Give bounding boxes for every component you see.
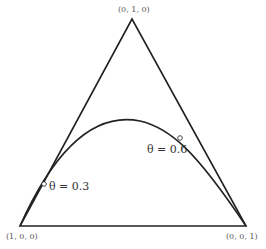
theta-0.6-marker xyxy=(178,136,183,141)
simplex-triangle xyxy=(20,19,246,226)
simplex-diagram: (0, 1, 0) (1, 0, 0) (0, 0, 1) θ = 0.3 θ … xyxy=(0,0,266,249)
theta-0.3-label: θ = 0.3 xyxy=(49,180,89,193)
vertex-label-bottom-right: (0, 0, 1) xyxy=(226,232,258,241)
theta-0.3-marker xyxy=(42,182,47,187)
theta-0.6-label: θ = 0.6 xyxy=(147,143,187,156)
vertex-label-top: (0, 1, 0) xyxy=(118,5,150,14)
theta-curve xyxy=(20,120,246,226)
vertex-label-bottom-left: (1, 0, 0) xyxy=(6,232,38,241)
simplex-canvas: (0, 1, 0) (1, 0, 0) (0, 0, 1) θ = 0.3 θ … xyxy=(0,0,266,249)
